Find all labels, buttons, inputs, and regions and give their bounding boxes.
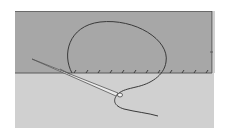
needle-eye	[118, 93, 123, 97]
sewing-illustration	[0, 0, 227, 139]
